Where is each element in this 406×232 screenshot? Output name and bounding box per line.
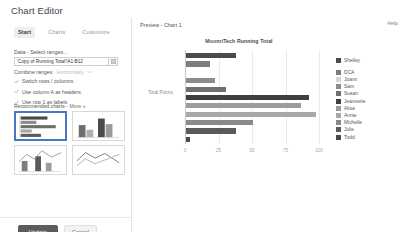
grid-picker-icon	[111, 59, 116, 64]
chart-bar	[186, 87, 226, 92]
combine-ranges-row: Combine ranges: Horizontally	[14, 69, 92, 75]
combo-chart-thumbnail[interactable]	[14, 145, 67, 175]
legend-label: Julie	[344, 127, 354, 132]
help-link[interactable]: Help	[387, 20, 398, 26]
legend-item[interactable]: DCA	[336, 70, 365, 75]
chart-bar	[186, 128, 236, 133]
recommended-charts-label: Recommended charts - More »	[14, 103, 86, 109]
legend-label: Michelle	[344, 120, 362, 125]
chart-bar	[186, 53, 236, 58]
bar-chart-thumbnail[interactable]	[14, 111, 67, 141]
legend-spacer	[336, 65, 365, 68]
legend-swatch	[336, 84, 341, 89]
legend-label: Joann	[344, 77, 357, 82]
chart-title: MoonriTech Running Total	[140, 38, 402, 44]
legend-label: Shelley	[344, 58, 360, 63]
legend-swatch	[336, 58, 341, 63]
legend-item[interactable]: Susan	[336, 91, 365, 96]
recommended-charts-text: Recommended charts -	[14, 103, 68, 109]
data-options-list: Switch rows / columns Use column A as he…	[14, 78, 81, 105]
x-axis-tick-label: 0	[184, 148, 187, 153]
legend-item[interactable]: Michelle	[336, 120, 365, 125]
cancel-button[interactable]: Cancel	[64, 225, 97, 232]
chart-preview[interactable]: MoonriTech Running Total Total Points 02…	[140, 34, 402, 174]
legend-swatch	[336, 91, 341, 96]
checkbox-use-column-a-as-headers[interactable]: Use column A as headers	[14, 89, 81, 95]
legend-label: Todd	[344, 135, 355, 140]
legend-swatch	[336, 127, 341, 132]
chart-bars	[186, 53, 319, 142]
chart-y-axis-label: Total Points	[148, 90, 173, 95]
chart-bar	[186, 61, 210, 66]
legend-label: Jeannette	[344, 99, 365, 104]
data-range-row: 'Copy of Running Total'!A1:B12	[14, 57, 118, 66]
gridline	[319, 50, 320, 144]
chart-editor-dialog: Chart Editor Help Start Charts Customize…	[0, 0, 406, 232]
chart-bar	[186, 95, 309, 100]
legend-label: Annie	[344, 113, 357, 118]
x-axis-tick-label: 50	[249, 148, 254, 153]
legend-item[interactable]: Julie	[336, 127, 365, 132]
legend-swatch	[336, 106, 341, 111]
legend-swatch	[336, 135, 341, 140]
update-button[interactable]: Update	[18, 225, 58, 232]
chart-bar	[186, 78, 215, 83]
chart-plot-area: 0255075100	[185, 50, 319, 144]
chart-bar	[186, 120, 253, 125]
chart-thumbnail-grid	[14, 111, 125, 175]
legend-label: Alisa	[344, 106, 355, 111]
panel-divider	[131, 18, 132, 232]
tab-charts[interactable]: Charts	[44, 27, 69, 38]
legend-label: Sam	[344, 84, 354, 89]
tab-start[interactable]: Start	[14, 27, 35, 38]
legend-swatch	[336, 77, 341, 82]
x-axis-tick-label: 25	[216, 148, 221, 153]
combine-ranges-select[interactable]: Horizontally	[57, 69, 84, 75]
data-range-input[interactable]: 'Copy of Running Total'!A1:B12	[14, 57, 109, 66]
legend-item[interactable]: Annie	[336, 113, 365, 118]
page-title: Chart Editor	[11, 5, 63, 16]
combine-ranges-label: Combine ranges:	[14, 69, 54, 75]
x-axis-tick-label: 75	[283, 148, 288, 153]
legend-label: Susan	[344, 91, 358, 96]
column-chart-thumbnail[interactable]	[72, 111, 125, 141]
check-icon	[14, 79, 19, 84]
settings-panel: Start Charts Customize Data - Select ran…	[0, 18, 131, 232]
legend-swatch	[336, 99, 341, 104]
range-picker-button[interactable]	[109, 57, 118, 66]
x-axis-tick-label: 100	[315, 148, 323, 153]
legend-item[interactable]: Shelley	[336, 58, 365, 63]
footer-divider	[0, 217, 131, 218]
legend-swatch	[336, 70, 341, 75]
chart-legend: ShelleyDCAJoannSamSusanJeannetteAlisaAnn…	[336, 58, 365, 140]
checkbox-label: Use column A as headers	[22, 89, 81, 95]
recommended-charts-more-link[interactable]: More »	[69, 103, 85, 109]
legend-swatch	[336, 120, 341, 125]
preview-label: Preview - Chart 1	[140, 22, 182, 28]
legend-item[interactable]: Jeannette	[336, 99, 365, 104]
chevron-down-icon	[87, 70, 92, 74]
legend-item[interactable]: Todd	[336, 135, 365, 140]
line-chart-thumbnail[interactable]	[72, 145, 125, 175]
checkbox-label: Switch rows / columns	[22, 78, 73, 84]
tab-customize[interactable]: Customize	[78, 27, 113, 38]
legend-swatch	[336, 113, 341, 118]
chart-bar	[186, 112, 316, 117]
chart-bar	[186, 103, 301, 108]
tab-bar: Start Charts Customize	[14, 27, 114, 38]
legend-item[interactable]: Joann	[336, 77, 365, 82]
checkbox-switch-rows-columns[interactable]: Switch rows / columns	[14, 78, 81, 84]
data-section-label: Data - Select ranges...	[14, 49, 68, 55]
chart-bar	[186, 137, 190, 142]
legend-item[interactable]: Alisa	[336, 106, 365, 111]
check-icon	[14, 89, 19, 94]
legend-label: DCA	[344, 70, 354, 75]
legend-item[interactable]: Sam	[336, 84, 365, 89]
